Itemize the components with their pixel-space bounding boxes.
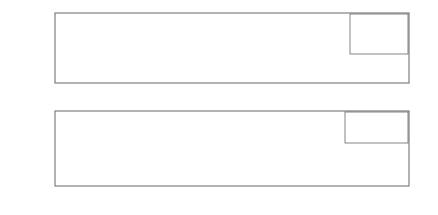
- top-legend: [350, 14, 408, 54]
- bottom-chart: [0, 0, 409, 186]
- bottom-legend: [345, 112, 408, 143]
- figure: [0, 0, 438, 215]
- top-chart: [0, 0, 409, 83]
